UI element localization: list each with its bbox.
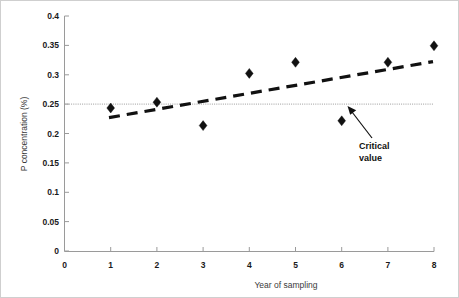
data-point-year-3 [199,121,207,131]
x-tick-marks [65,247,435,252]
y-tick-label-0: 0 [54,246,59,256]
x-tick-label-3: 3 [201,260,206,270]
y-tick-label-0.3: 0.3 [47,70,59,80]
y-tick-label-0.05: 0.05 [42,217,59,227]
x-tick-label-2: 2 [155,260,160,270]
data-point-year-4 [245,68,253,78]
scatter-plot: 0.4 0.35 0.3 0.25 0.2 0.15 0.1 0.05 0 0 … [1,1,459,298]
x-tick-label-6: 6 [339,260,344,270]
data-point-year-7 [384,57,392,67]
data-point-markers [107,41,438,131]
chart-figure: 0.4 0.35 0.3 0.25 0.2 0.15 0.1 0.05 0 0 … [0,0,459,298]
critical-value-label-line2: value [359,153,382,163]
y-tick-label-0.2: 0.2 [47,129,59,139]
critical-value-arrow [348,106,373,138]
data-point-year-8 [430,41,438,51]
y-tick-marks [65,16,70,251]
y-tick-label-0.1: 0.1 [47,187,59,197]
y-tick-label-0.4: 0.4 [47,11,59,21]
y-tick-label-0.25: 0.25 [42,99,59,109]
y-tick-label-0.15: 0.15 [42,158,59,168]
x-tick-label-0: 0 [62,260,67,270]
y-tick-label-0.35: 0.35 [42,40,59,50]
x-tick-label-8: 8 [432,260,437,270]
critical-value-label-line1: Critical [359,141,390,151]
y-axis-title: P concentration (%) [19,97,29,172]
data-point-year-5 [292,57,300,67]
data-point-year-2 [153,97,161,107]
x-tick-label-5: 5 [293,260,298,270]
data-point-year-6 [338,116,346,126]
x-tick-label-1: 1 [108,260,113,270]
x-tick-label-4: 4 [247,260,252,270]
trend-line [109,62,433,118]
x-tick-label-7: 7 [386,260,391,270]
x-axis-title: Year of sampling [254,280,317,290]
